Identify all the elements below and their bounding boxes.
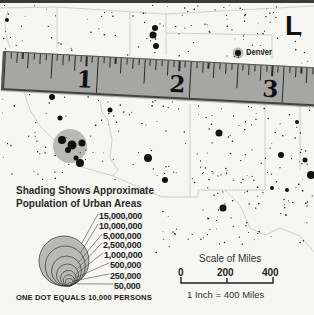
population-dot <box>257 187 259 189</box>
population-dot <box>104 12 105 13</box>
population-dot <box>152 5 153 6</box>
urban-area-cluster <box>235 50 241 56</box>
population-dot <box>257 196 258 197</box>
ruler-tick <box>127 58 128 64</box>
ruler-tick <box>22 53 23 59</box>
population-dot <box>168 166 169 167</box>
population-dot <box>306 164 307 165</box>
population-dot <box>154 52 155 53</box>
dot-value-note: ONE DOT EQUALS 10,000 PERSONS <box>16 293 152 302</box>
population-dot <box>4 5 5 6</box>
population-dot <box>51 37 53 39</box>
population-dot <box>44 152 45 153</box>
population-dot <box>229 5 230 6</box>
population-dot <box>284 204 285 205</box>
urban-area-cluster <box>49 94 55 100</box>
population-dot <box>302 179 303 180</box>
urban-area-cluster <box>295 120 299 124</box>
legend-level-50k: 50,000 <box>114 281 140 291</box>
population-dot <box>187 11 188 12</box>
population-dot <box>232 200 233 201</box>
population-dot <box>155 38 157 40</box>
population-dot <box>85 159 86 160</box>
population-dot <box>169 246 170 247</box>
population-dot <box>192 178 193 179</box>
population-dot <box>277 37 279 39</box>
ruler-tick <box>277 66 278 72</box>
population-dot <box>113 159 114 160</box>
population-dot <box>7 143 8 144</box>
population-dot <box>242 9 243 10</box>
ruler-tick <box>27 53 29 68</box>
ruler-tick <box>57 55 58 61</box>
population-dots-layer <box>2 5 314 254</box>
population-dot <box>42 179 43 180</box>
ruler-tick <box>185 62 186 68</box>
ruler-tick <box>62 55 64 65</box>
ruler-label-1: 1 <box>76 67 93 91</box>
population-dot <box>248 232 249 233</box>
population-dot <box>306 205 307 206</box>
population-dot <box>127 54 128 55</box>
population-dot <box>162 211 163 212</box>
ruler-tick <box>39 54 41 64</box>
urban-area-cluster <box>108 108 113 113</box>
population-dot <box>216 220 217 221</box>
population-dot <box>165 166 166 167</box>
ruler-tick <box>161 60 162 66</box>
ruler-tick <box>50 55 52 79</box>
population-dot <box>235 38 236 39</box>
population-dot <box>49 102 50 103</box>
population-dot <box>182 15 183 16</box>
population-dot <box>212 173 213 174</box>
population-dot <box>103 152 104 153</box>
population-dot <box>255 207 256 208</box>
population-dot <box>218 209 219 210</box>
population-dot <box>3 157 4 158</box>
population-dot <box>165 130 166 131</box>
population-dot <box>55 15 56 16</box>
urban-area-cluster <box>58 136 66 144</box>
scale-note: 1 Inch = 400 Miles <box>187 289 264 300</box>
legend-level-10m: 10,000,000 <box>99 221 142 231</box>
population-dot <box>197 5 198 6</box>
population-dot <box>284 207 285 208</box>
population-dot <box>225 168 226 169</box>
population-dot <box>245 121 246 122</box>
scale-tick-0: 0 <box>178 267 184 278</box>
ruler-tick <box>173 61 174 67</box>
population-dot <box>152 37 153 38</box>
population-dot <box>207 187 208 188</box>
population-dot <box>163 231 164 232</box>
population-dot <box>262 192 263 193</box>
population-dot <box>226 15 227 16</box>
urban-area-cluster <box>5 18 9 22</box>
urban-area-cluster <box>278 152 284 158</box>
population-dot <box>90 32 92 34</box>
population-dot <box>200 160 201 161</box>
population-dot <box>247 175 248 176</box>
population-dot <box>239 7 240 8</box>
population-dot <box>200 238 201 239</box>
population-dot <box>200 167 201 168</box>
population-dot <box>107 101 108 102</box>
population-dot <box>302 190 304 192</box>
population-dot <box>34 5 35 6</box>
population-dot <box>232 140 233 141</box>
population-dot <box>276 181 277 182</box>
population-dot <box>288 200 289 201</box>
population-dot <box>8 13 9 14</box>
population-dot <box>247 190 248 191</box>
scale-tick-400: 400 <box>262 267 279 278</box>
population-dot <box>257 33 258 34</box>
population-dot <box>238 125 239 126</box>
population-dot <box>198 114 199 115</box>
ruler-tick <box>138 59 139 65</box>
population-dot <box>248 203 249 204</box>
population-dot <box>271 236 272 237</box>
population-dot <box>228 136 230 138</box>
population-dot <box>65 116 66 117</box>
population-dot <box>304 52 305 53</box>
population-dot <box>252 44 253 45</box>
population-dot <box>155 100 156 101</box>
